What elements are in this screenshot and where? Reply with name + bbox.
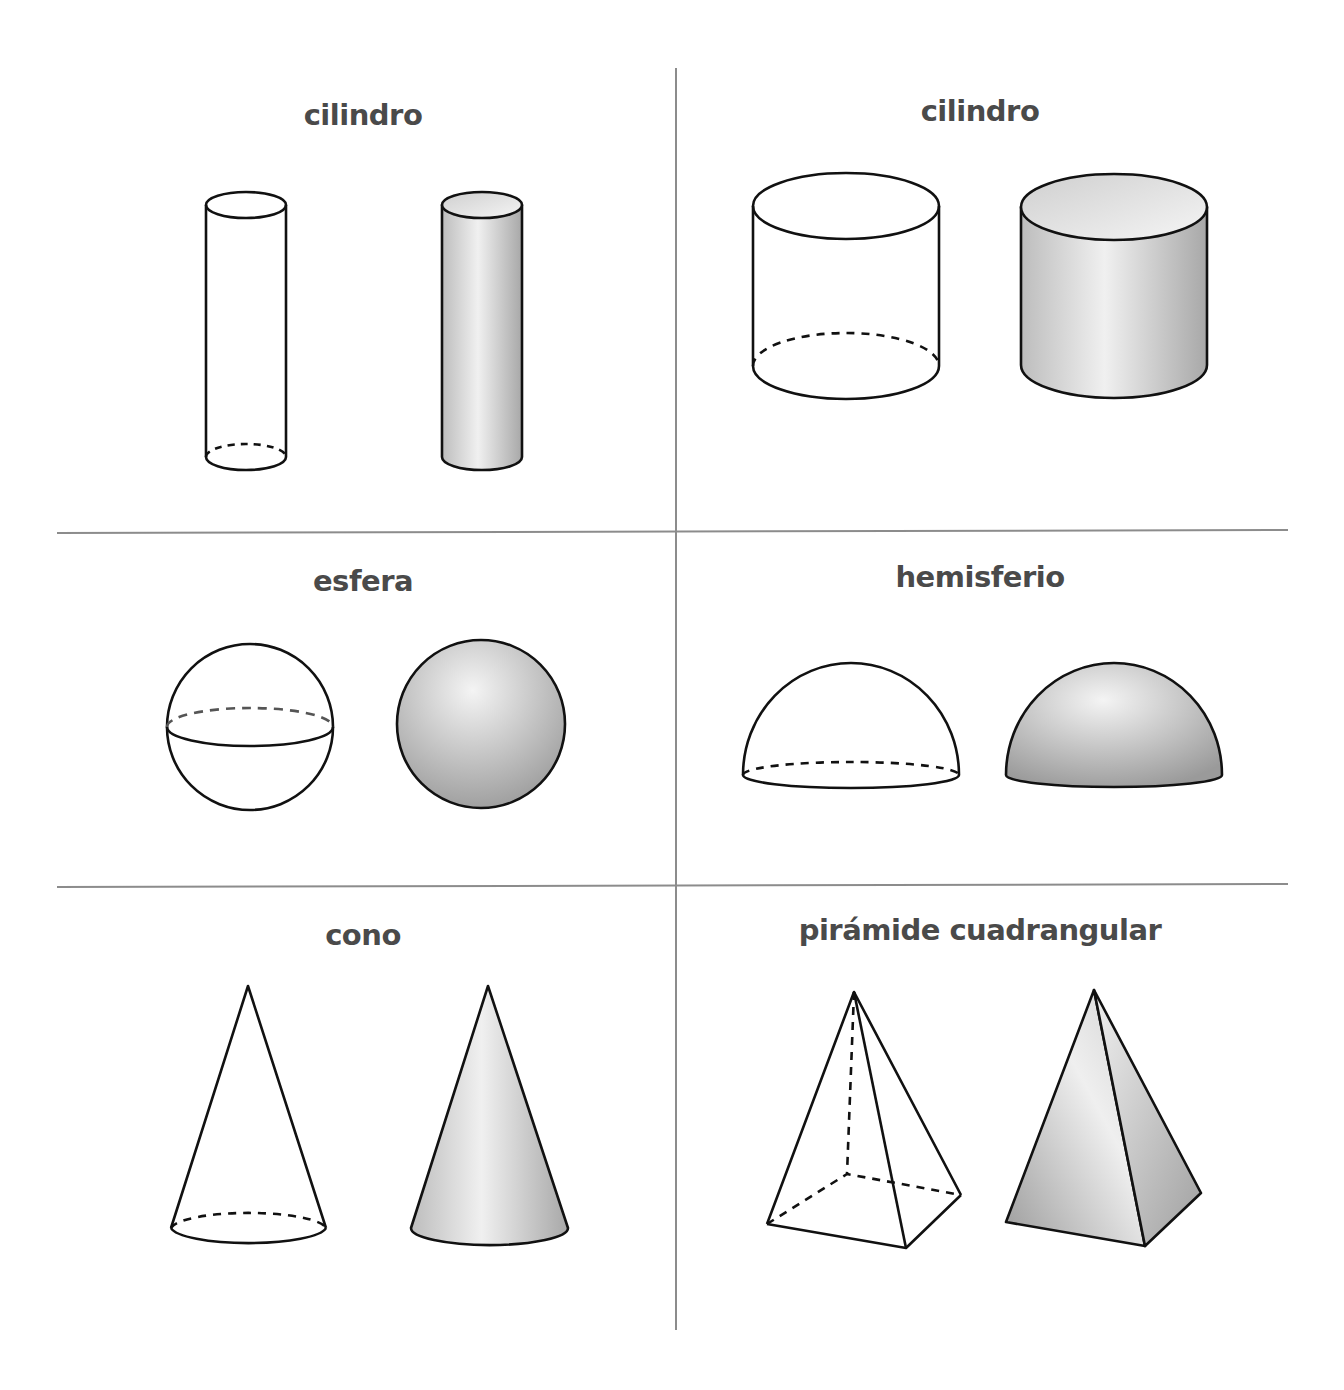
cylinder-tall-shaded	[442, 192, 522, 470]
cone-shaded	[411, 986, 568, 1245]
sphere-shaded	[397, 640, 565, 808]
cylinder-wide-shaded	[1021, 174, 1207, 398]
cone-outline	[171, 986, 326, 1243]
geometric-solids-figure	[0, 0, 1344, 1390]
cylinder-tall-outline	[206, 192, 286, 470]
cylinder-wide-outline	[753, 173, 939, 399]
hemisphere-outline	[743, 663, 959, 788]
sphere-outline	[167, 644, 333, 810]
square-pyramid-shaded	[1006, 990, 1201, 1246]
hemisphere-shaded	[1006, 663, 1222, 787]
square-pyramid-outline	[767, 992, 961, 1248]
